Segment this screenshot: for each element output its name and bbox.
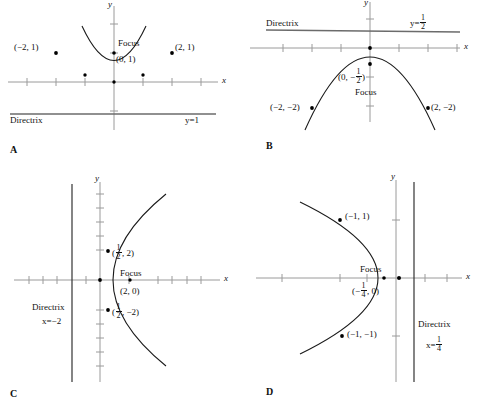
focus-title: Focus: [120, 269, 142, 278]
panel-a-plot: [0, 0, 242, 170]
focus-title: Focus: [360, 265, 382, 274]
directrix-equation-fraction: 14: [436, 336, 442, 353]
directrix-line: [266, 30, 460, 32]
focus-title: Focus: [355, 88, 377, 97]
point-vertex: [112, 80, 115, 83]
point-2-1: [170, 51, 174, 55]
point-focus: [368, 62, 372, 66]
point-label-half-neg2: (12, −2): [112, 303, 139, 320]
point-vertex: [397, 276, 401, 280]
point-label-fraction: 12: [116, 244, 122, 261]
panel-a: y x Focus (0, 1) (−2, 1) (2, 1) Directri…: [0, 0, 242, 170]
directrix-equation: y=12: [410, 14, 427, 31]
point-label-neg1-1: (−1, 1): [345, 212, 370, 221]
point-label-suffix: , 2): [122, 248, 134, 258]
point-2-neg2: [426, 106, 430, 110]
focus-point-fraction: 12: [356, 68, 362, 85]
focus-point-prefix: (0, −: [338, 72, 355, 82]
point-vertex: [368, 46, 372, 50]
fraction-numerator: 1: [436, 336, 442, 344]
point-half-2: [106, 249, 110, 253]
fraction-denominator: 2: [116, 311, 122, 320]
focus-point-suffix: , 0): [367, 286, 379, 296]
y-axis-label: y: [364, 0, 368, 7]
directrix-label: Directrix: [418, 320, 450, 329]
fraction-numerator: 1: [361, 282, 367, 290]
panel-c: y x (12, 2) Focus (2, 0) (12, −2) Direct…: [0, 170, 242, 413]
panel-b: y x Directrix y=12 (0, −12) Focus (−2, −…: [242, 0, 484, 170]
x-axis-label: x: [222, 76, 226, 85]
y-axis-label: y: [95, 174, 99, 183]
point-vertex: [98, 278, 102, 282]
fraction-numerator: 1: [116, 244, 122, 252]
directrix-label: Directrix: [10, 116, 42, 125]
point-focus: [128, 278, 131, 281]
point-label-2-1: (2, 1): [175, 43, 195, 52]
directrix-equation-rel: =: [415, 18, 420, 28]
directrix-equation-value: 1: [195, 115, 200, 125]
point-neg2-neg2: [310, 106, 314, 110]
x-axis-label: x: [224, 274, 228, 283]
fraction-denominator: 2: [356, 76, 362, 85]
point-label-neg2-neg2: (−2, −2): [270, 103, 300, 112]
panel-d: y x (−1, 1) (−1, −1) Focus (−14, 0) Dire…: [242, 170, 484, 413]
fraction-denominator: 4: [361, 290, 367, 299]
point-label-2-neg2: (2, −2): [431, 103, 456, 112]
y-axis-label: y: [108, 0, 112, 9]
x-axis-label: x: [464, 42, 468, 51]
x-axis-label: x: [466, 272, 470, 281]
panel-letter-c: C: [10, 388, 17, 399]
point-label-suffix: , −2): [122, 307, 139, 317]
point-focus: [382, 276, 386, 280]
point-unlabeled-right: [141, 73, 144, 76]
panel-letter-d: D: [266, 386, 273, 397]
focus-point-label: (0, −12): [338, 68, 365, 85]
point-label-neg1-neg1: (−1, −1): [347, 330, 377, 339]
fraction-numerator: 1: [356, 68, 362, 76]
directrix-label: Directrix: [32, 303, 64, 312]
panel-letter-a: A: [10, 144, 17, 155]
focus-point-label: (−14, 0): [352, 282, 379, 299]
point-neg1-1: [338, 218, 342, 222]
y-axis-label: y: [391, 172, 395, 181]
directrix-equation: x=−2: [42, 317, 61, 326]
point-half-neg2: [106, 308, 110, 312]
directrix-label: Directrix: [266, 19, 298, 28]
fraction-numerator: 1: [420, 14, 426, 22]
fraction-denominator: 2: [116, 252, 122, 261]
point-label-fraction: 12: [116, 303, 122, 320]
directrix-equation-fraction: 12: [420, 14, 426, 31]
point-label-half-2: (12, 2): [112, 244, 134, 261]
fraction-denominator: 2: [420, 22, 426, 31]
focus-title: Focus: [118, 39, 140, 48]
fraction-numerator: 1: [116, 303, 122, 311]
focus-point-suffix: ): [362, 72, 365, 82]
directrix-equation-rel: =: [431, 340, 436, 350]
focus-point-fraction: 14: [361, 282, 367, 299]
fraction-denominator: 4: [436, 344, 442, 353]
focus-point-label: (2, 0): [120, 287, 140, 296]
point-neg2-1: [54, 51, 58, 55]
focus-point-prefix: (−: [352, 286, 360, 296]
directrix-equation: x=14: [426, 336, 443, 353]
directrix-equation-value: −2: [52, 316, 62, 326]
point-unlabeled-left: [83, 73, 86, 76]
panel-letter-b: B: [266, 140, 273, 151]
point-label-neg2-1: (−2, 1): [14, 43, 39, 52]
point-neg1-neg1: [340, 334, 344, 338]
focus-point-label: (0, 1): [116, 55, 136, 64]
directrix-equation: y=1: [185, 116, 199, 125]
